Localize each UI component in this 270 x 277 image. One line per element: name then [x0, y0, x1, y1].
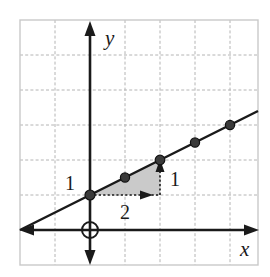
point-on-line: [190, 138, 199, 147]
coordinate-plane-diagram: 1 2 1 y x: [0, 0, 270, 277]
x-axis-label: x: [239, 237, 250, 261]
intercept-label: 1: [65, 172, 75, 194]
figure-container: 1 2 1 y x: [0, 0, 270, 277]
plot-background: [20, 20, 258, 265]
rise-label: 1: [170, 168, 180, 190]
point-on-line: [120, 173, 129, 182]
run-label: 2: [120, 201, 130, 223]
point-y-intercept: [85, 190, 95, 200]
point-on-line: [225, 120, 234, 129]
point-on-line: [155, 155, 165, 165]
y-axis-label: y: [103, 26, 115, 50]
